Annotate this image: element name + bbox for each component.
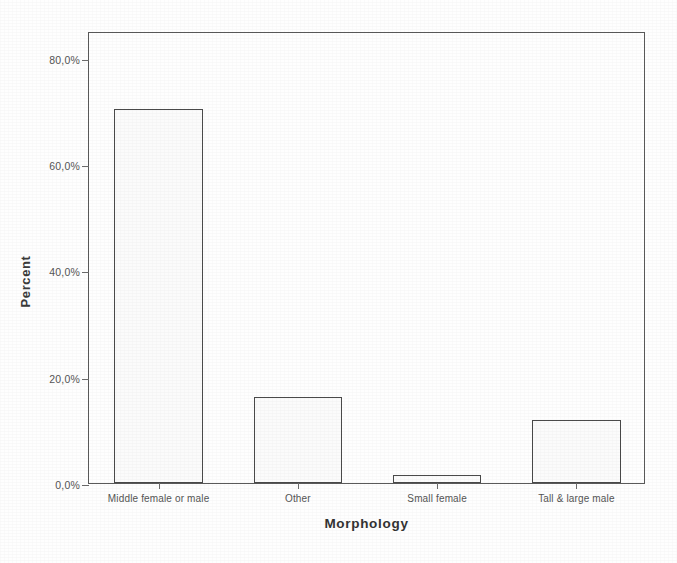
plot-area: 0,0%20,0%40,0%60,0%80,0% Middle female o…	[88, 32, 645, 484]
y-axis-tick-label: 40,0%	[49, 266, 80, 278]
bar	[254, 397, 342, 483]
y-axis-title-text: Percent	[19, 256, 34, 308]
y-axis-tick	[82, 379, 89, 380]
y-axis-tick	[82, 485, 89, 486]
y-axis-title: Percent	[12, 0, 40, 563]
y-axis-tick-label: 80,0%	[49, 54, 80, 66]
x-axis-tick	[437, 483, 438, 489]
x-axis-tick	[298, 483, 299, 489]
bar	[114, 109, 202, 483]
y-axis-tick	[82, 272, 89, 273]
y-axis-tick-label: 0,0%	[55, 479, 80, 491]
x-axis-tick-label: Tall & large male	[538, 493, 614, 504]
y-axis-tick-label: 20,0%	[49, 373, 80, 385]
x-axis-title: Morphology	[88, 516, 645, 531]
y-axis-tick	[82, 166, 89, 167]
bar	[532, 420, 620, 483]
x-axis-tick-label: Middle female or male	[108, 493, 210, 504]
x-axis-tick-label: Other	[285, 493, 311, 504]
bar	[393, 475, 481, 484]
x-axis-tick	[159, 483, 160, 489]
x-axis-tick	[576, 483, 577, 489]
bar-chart-figure: Percent 0,0%20,0%40,0%60,0%80,0% Middle …	[0, 0, 677, 563]
bar-series	[89, 33, 644, 483]
y-axis-tick	[82, 60, 89, 61]
y-axis-tick-label: 60,0%	[49, 160, 80, 172]
x-axis-tick-label: Small female	[407, 493, 467, 504]
